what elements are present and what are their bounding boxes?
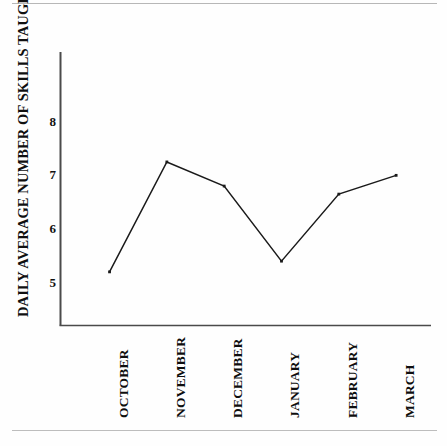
y-tick-label-7: 7 [40,167,56,183]
data-point-marker [223,185,226,188]
x-tick-label-february: FEBRUARY [345,342,361,418]
x-tick-label-december: DECEMBER [230,338,246,418]
plot-area [0,0,447,446]
data-point-marker [280,260,283,263]
data-point-marker [337,193,340,196]
x-tick-label-january: JANUARY [287,352,303,418]
y-tick-label-6: 6 [40,221,56,237]
data-point-marker [395,174,398,177]
x-tick-label-march: MARCH [402,365,418,419]
x-tick-label-october: OCTOBER [116,349,132,418]
chart-figure: DAILY AVERAGE NUMBER OF SKILLS TAUGHT 87… [0,0,447,446]
y-tick-label-8: 8 [40,114,56,130]
data-point-markers [108,161,397,274]
data-series-line [110,162,397,272]
x-tick-label-november: NOVEMBER [173,337,189,418]
data-point-marker [108,270,111,273]
data-point-marker [165,161,168,164]
y-tick-label-5: 5 [40,275,56,291]
